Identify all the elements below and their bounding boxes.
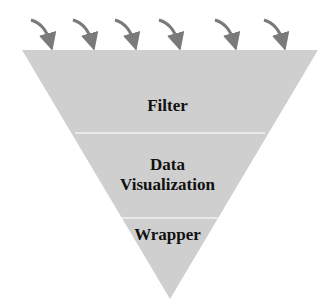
arrow-icon bbox=[264, 20, 283, 42]
layer-visualization-label-line2: Visualization bbox=[0, 175, 335, 194]
arrow-icon bbox=[73, 20, 92, 42]
arrow-icon bbox=[115, 20, 134, 42]
arrow-icon bbox=[215, 20, 234, 42]
layer-data-label-line1: Data bbox=[0, 155, 335, 174]
funnel-diagram bbox=[0, 0, 335, 307]
arrow-icon bbox=[159, 20, 178, 42]
layer-wrapper-label: Wrapper bbox=[0, 225, 335, 244]
arrow-icon bbox=[31, 20, 50, 42]
layer-filter-label: Filter bbox=[0, 96, 335, 115]
input-arrows bbox=[31, 20, 283, 42]
